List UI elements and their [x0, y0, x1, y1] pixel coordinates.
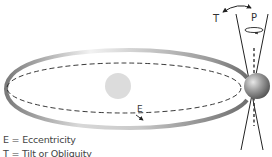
label-eccentricity: E — [137, 104, 143, 114]
precession-arrow-icon — [245, 28, 263, 34]
legend-tilt: T = Tilt or Obliquity — [3, 148, 92, 157]
sun — [105, 73, 131, 99]
eccentricity-arrow-icon — [136, 115, 143, 120]
tilt-arrow-icon — [223, 6, 251, 12]
earth — [244, 73, 270, 99]
label-precession: P — [251, 12, 257, 23]
label-tilt: T — [212, 13, 220, 24]
legend-eccentricity: E = Eccentricity — [3, 134, 76, 145]
